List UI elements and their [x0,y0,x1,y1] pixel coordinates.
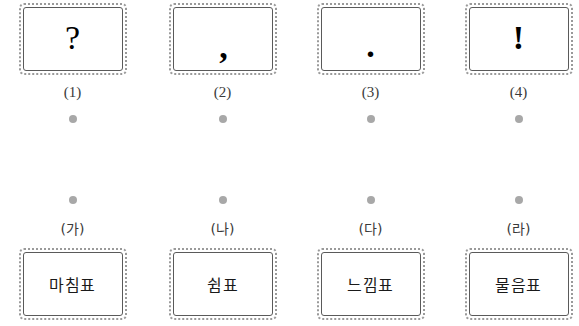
term-card-3-content: 느낌표 [322,253,420,315]
symbol-card-1[interactable]: ? [23,7,123,71]
symbol-card-1-content: ? [24,8,122,70]
symbol-card-4-content: ! [470,8,568,70]
symbol-card-1-label: (1) [0,84,145,101]
worksheet-canvas: ? (1) (가) 마침표 , (2) (나) 쉼표 [0,0,579,326]
matching-column-3: . (3) (다) 느낌표 [298,0,443,326]
connector-dot-top-1[interactable] [69,115,77,123]
term-card-3-text: 느낌표 [347,272,394,296]
period-glyph: . [366,29,375,63]
term-card-4-label: (라) [446,218,579,238]
term-card-2-label: (나) [150,218,295,238]
term-card-3[interactable]: 느낌표 [321,252,421,316]
symbol-card-4[interactable]: ! [469,7,569,71]
connector-dot-bottom-1[interactable] [69,196,77,204]
term-card-1-label: (가) [0,218,145,238]
symbol-card-3[interactable]: . [321,7,421,71]
connector-dot-bottom-2[interactable] [219,196,227,204]
symbol-card-2-content: , [174,8,272,70]
term-card-4-content: 물음표 [470,253,568,315]
exclamation-mark-glyph: ! [513,21,524,55]
matching-column-4: ! (4) (라) 물음표 [446,0,579,326]
term-card-1[interactable]: 마침표 [23,252,123,316]
term-card-1-content: 마침표 [24,253,122,315]
term-card-4-text: 물음표 [495,272,542,296]
term-card-1-text: 마침표 [49,272,96,296]
symbol-card-3-content: . [322,8,420,70]
connector-dot-top-2[interactable] [219,115,227,123]
question-mark-glyph: ? [65,21,80,55]
matching-column-1: ? (1) (가) 마침표 [0,0,145,326]
term-card-2-text: 쉼표 [207,272,238,296]
symbol-card-3-label: (3) [298,84,443,101]
term-card-4[interactable]: 물음표 [469,252,569,316]
term-card-2-content: 쉼표 [174,253,272,315]
term-card-3-label: (다) [298,218,443,238]
symbol-card-2[interactable]: , [173,7,273,71]
connector-dot-bottom-3[interactable] [367,196,375,204]
connector-dot-top-3[interactable] [367,115,375,123]
connector-dot-top-4[interactable] [515,115,523,123]
connector-dot-bottom-4[interactable] [515,196,523,204]
matching-column-2: , (2) (나) 쉼표 [150,0,295,326]
symbol-card-4-label: (4) [446,84,579,101]
symbol-card-2-label: (2) [150,84,295,101]
term-card-2[interactable]: 쉼표 [173,252,273,316]
comma-glyph: , [219,30,228,64]
